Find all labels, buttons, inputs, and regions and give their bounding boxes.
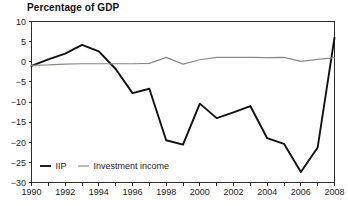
x-tick-label: 1998 <box>156 187 176 197</box>
y-tick-label: −15 <box>11 117 26 127</box>
x-tick-label: 2006 <box>291 187 311 197</box>
plot-frame <box>32 22 335 183</box>
axes-group <box>32 22 335 183</box>
y-tick-label: −5 <box>16 77 26 87</box>
y-tick-label: −20 <box>11 138 26 148</box>
y-tick-label: 0 <box>21 57 26 67</box>
x-axis-ticks: 1990199219941996199820002002200420062008 <box>21 183 344 198</box>
x-tick-label: 1994 <box>89 187 109 197</box>
y-tick-label: 10 <box>16 17 26 27</box>
x-tick-label: 2000 <box>190 187 210 197</box>
y-tick-label: 5 <box>21 37 26 47</box>
data-series-group <box>32 38 335 172</box>
series-line-investment-income <box>32 57 335 65</box>
chart-figure: Percentage of GDP 1050−5−10−15−20−25−30 … <box>0 0 348 206</box>
x-tick-label: 2004 <box>257 187 277 197</box>
line-chart-plot: 1050−5−10−15−20−25−30 199019921994199619… <box>0 0 348 206</box>
x-tick-label: 1996 <box>122 187 142 197</box>
x-tick-label: 2002 <box>223 187 243 197</box>
x-tick-label: 2008 <box>324 187 344 197</box>
series-line-iip <box>32 38 335 172</box>
y-tick-label: −25 <box>11 158 26 168</box>
y-tick-label: −10 <box>11 97 26 107</box>
x-tick-label: 1990 <box>21 187 41 197</box>
x-tick-label: 1992 <box>55 187 75 197</box>
legend-label-investment-income: Investment income <box>94 161 170 171</box>
y-axis-ticks: 1050−5−10−15−20−25−30 <box>11 17 32 188</box>
legend-label-iip: IIP <box>56 161 67 171</box>
chart-legend: IIPInvestment income <box>40 161 169 171</box>
